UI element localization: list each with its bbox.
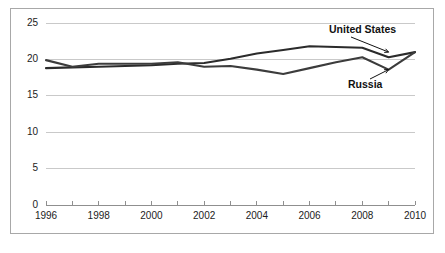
y-axis-tick-label: 20 [27,53,39,64]
series-line-russia [46,52,415,74]
y-axis-tick-label: 5 [32,162,38,173]
x-axis-tick-label: 2010 [404,210,427,221]
chart-figure: 0510152025 19961998200020022004200620082… [0,0,445,253]
x-axis-tick-label: 1996 [35,210,58,221]
x-axis-tick-label: 2004 [246,210,269,221]
y-axis-tick-label: 0 [32,199,38,210]
x-axis-tick-marks [46,201,415,205]
y-axis-tick-label: 10 [27,126,39,137]
x-axis-tick-label: 1998 [88,210,111,221]
annotation-russia: Russia [348,70,389,90]
line-chart-canvas: 0510152025 19961998200020022004200620082… [11,9,433,233]
y-axis-tick-label: 15 [27,89,39,100]
x-axis-tick-labels: 19961998200020022004200620082010 [35,210,427,221]
x-axis-tick-label: 2000 [140,210,163,221]
x-axis-tick-label: 2002 [193,210,216,221]
y-axis-tick-labels: 0510152025 [27,17,39,210]
annotation-label-russia: Russia [348,78,383,90]
x-axis-tick-label: 2008 [351,210,374,221]
annotation-label-united-states: United States [329,23,396,35]
grid-lines [46,23,415,169]
chart-plot-frame: 0510152025 19961998200020022004200620082… [10,8,434,234]
x-axis-tick-label: 2006 [298,210,321,221]
y-axis-tick-label: 25 [27,17,39,28]
